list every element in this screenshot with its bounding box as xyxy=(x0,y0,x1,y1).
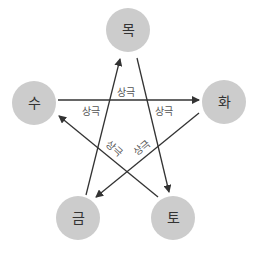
svg-text:수: 수 xyxy=(28,95,41,111)
edge-fire-metal xyxy=(96,113,199,197)
edge-earth-water xyxy=(59,116,158,197)
node-fire: 화 xyxy=(202,80,246,124)
svg-text:토: 토 xyxy=(167,210,180,226)
figure-caption xyxy=(0,248,254,259)
node-wood: 목 xyxy=(106,8,150,52)
edge-label-wood-earth: 상극 xyxy=(155,106,173,117)
svg-text:금: 금 xyxy=(72,210,85,226)
edge-metal-wood xyxy=(86,59,120,195)
edge-label-fire-metal: 상극 xyxy=(132,138,153,158)
edge-label-water-fire: 상극 xyxy=(117,87,135,98)
edge-label-metal-wood: 상극 xyxy=(82,106,100,117)
node-metal: 금 xyxy=(56,196,100,240)
five-elements-diagram: 상극 상극 상극 상극 상극 목 화 토 금 수 xyxy=(0,0,254,259)
svg-text:화: 화 xyxy=(218,94,231,110)
edge-wood-earth xyxy=(137,58,169,192)
svg-text:목: 목 xyxy=(122,22,135,38)
node-water: 수 xyxy=(12,81,56,125)
node-earth: 토 xyxy=(151,196,195,240)
